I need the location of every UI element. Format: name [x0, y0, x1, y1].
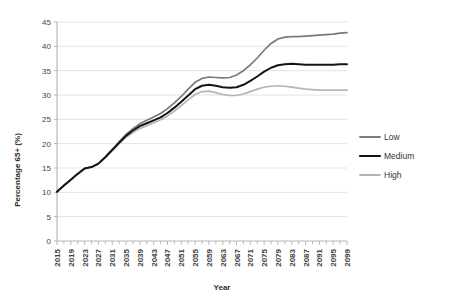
x-tick-label: 2027: [94, 248, 103, 266]
x-tick-label: 2063: [219, 248, 228, 266]
x-axis-tick-labels: 2015201920232027203120352039204320472051…: [53, 248, 352, 266]
x-tick-label: 2019: [67, 248, 76, 266]
x-tick-label: 2075: [260, 248, 269, 266]
x-axis-title: Year: [214, 283, 231, 292]
x-tick-label: 2051: [177, 248, 186, 266]
y-tick-label: 25: [42, 115, 51, 124]
legend-label-medium: Medium: [384, 151, 414, 161]
y-tick-label: 0: [47, 237, 52, 246]
x-tick-label: 2039: [136, 248, 145, 266]
x-tick-label: 2099: [343, 248, 352, 266]
x-tick-label: 2087: [302, 248, 311, 266]
line-chart: 051015202530354045 201520192023202720312…: [0, 0, 456, 301]
series-line-medium: [57, 64, 347, 192]
x-tick-label: 2023: [81, 248, 90, 266]
y-axis-title: Percentage 65+ (%): [13, 133, 22, 207]
y-tick-label: 10: [42, 188, 51, 197]
y-axis-tick-labels: 051015202530354045: [42, 18, 51, 246]
series-line-high: [57, 86, 347, 192]
x-tick-label: 2083: [288, 248, 297, 266]
x-tick-label: 2095: [329, 248, 338, 266]
x-tick-label: 2071: [246, 248, 255, 266]
x-tick-label: 2079: [274, 248, 283, 266]
y-tick-label: 40: [42, 42, 51, 51]
y-tick-label: 35: [42, 67, 51, 76]
x-tick-label: 2043: [150, 248, 159, 266]
x-tick-label: 2035: [122, 248, 131, 266]
chart-container: 051015202530354045 201520192023202720312…: [0, 0, 456, 301]
x-tick-label: 2059: [205, 248, 214, 266]
x-tick-label: 2067: [233, 248, 242, 266]
y-tick-label: 30: [42, 91, 51, 100]
y-tick-label: 15: [42, 164, 51, 173]
gridlines: [57, 22, 347, 217]
legend-label-low: Low: [384, 132, 400, 142]
y-tick-label: 45: [42, 18, 51, 27]
legend: LowMediumHigh: [360, 132, 414, 180]
y-tick-label: 5: [47, 213, 52, 222]
x-tick-label: 2091: [315, 248, 324, 266]
x-tick-label: 2047: [163, 248, 172, 266]
x-tick-label: 2055: [191, 248, 200, 266]
x-axis: [57, 241, 347, 245]
y-axis: [54, 22, 57, 241]
x-tick-label: 2031: [108, 248, 117, 266]
x-tick-label: 2015: [53, 248, 62, 266]
legend-label-high: High: [384, 170, 402, 180]
y-tick-label: 20: [42, 140, 51, 149]
